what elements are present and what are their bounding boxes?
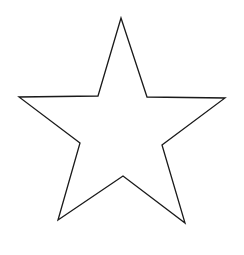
star-outline <box>19 18 225 223</box>
star-icon <box>0 0 244 255</box>
drawing-canvas <box>0 0 244 255</box>
